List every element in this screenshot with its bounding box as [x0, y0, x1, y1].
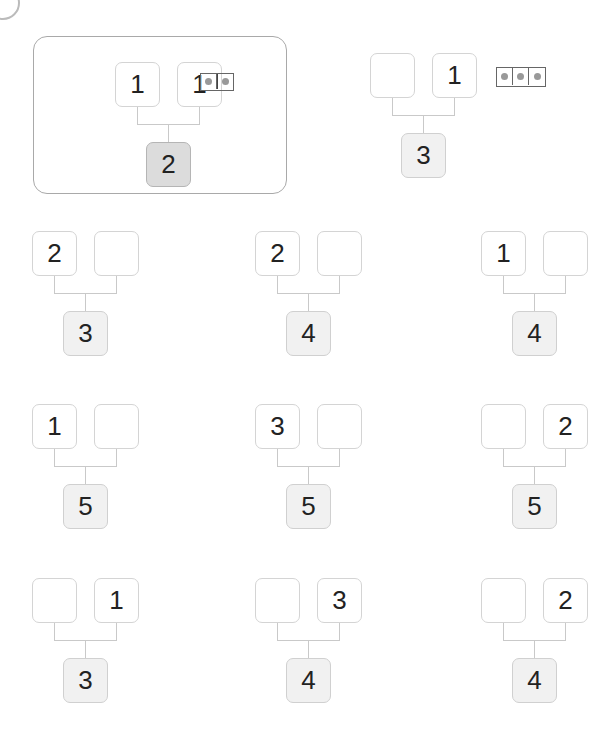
- number-bond-8: 3 4: [255, 578, 411, 718]
- connector-line: [308, 640, 309, 658]
- connector-line: [565, 623, 566, 640]
- part-box-left[interactable]: [370, 53, 415, 98]
- part-box-right: 2: [543, 404, 588, 449]
- connector-line: [277, 449, 278, 466]
- connector-line: [54, 276, 55, 293]
- connector-line: [277, 623, 278, 640]
- connector-line: [339, 449, 340, 466]
- dot-icon: [205, 78, 212, 85]
- number-bond-5: 3 5: [255, 404, 411, 544]
- part-box-right: 2: [543, 578, 588, 623]
- connector-line: [339, 276, 340, 293]
- connector-line: [565, 276, 566, 293]
- connector-line: [454, 98, 455, 115]
- counter-cell: [217, 74, 233, 89]
- connector-line: [54, 449, 55, 466]
- whole-box: 4: [512, 311, 557, 356]
- connector-line: [534, 466, 535, 484]
- number-bond-9: 2 4: [481, 578, 615, 718]
- dot-icon: [517, 73, 524, 80]
- connector-line: [308, 293, 309, 311]
- counter-cell: [529, 68, 545, 85]
- connector-line: [199, 107, 200, 124]
- connector-line: [308, 466, 309, 484]
- whole-box: 5: [512, 484, 557, 529]
- dot-icon: [534, 73, 541, 80]
- part-box-left: 1: [32, 404, 77, 449]
- number-bond-4: 1 5: [32, 404, 188, 544]
- counter-cell: [201, 74, 217, 89]
- connector-line: [116, 623, 117, 640]
- connector-line: [85, 640, 86, 658]
- whole-box: 2: [146, 142, 191, 187]
- connector-line: [503, 623, 504, 640]
- connector-line: [85, 293, 86, 311]
- number-bond-6: 2 5: [481, 404, 615, 544]
- counter-cell: [497, 68, 513, 85]
- connector-line: [85, 466, 86, 484]
- dot-icon: [501, 73, 508, 80]
- part-box-left: 3: [255, 404, 300, 449]
- part-box-right[interactable]: [543, 231, 588, 276]
- counter-cell: [513, 68, 529, 85]
- part-box-right[interactable]: [94, 404, 139, 449]
- part-box-right: 1: [94, 578, 139, 623]
- number-bond-1: 2 3: [32, 231, 188, 371]
- connector-line: [168, 124, 169, 142]
- dot-counter: [200, 73, 234, 91]
- part-box-right: 1: [432, 53, 477, 98]
- part-box-right[interactable]: [317, 231, 362, 276]
- part-box-left: 1: [481, 231, 526, 276]
- connector-line: [277, 276, 278, 293]
- part-box-left[interactable]: [32, 578, 77, 623]
- part-box-left: 2: [32, 231, 77, 276]
- part-box-right[interactable]: [317, 404, 362, 449]
- connector-line: [534, 640, 535, 658]
- whole-box: 4: [286, 311, 331, 356]
- part-box-left: 1: [115, 62, 160, 107]
- connector-line: [565, 449, 566, 466]
- connector-line: [503, 449, 504, 466]
- whole-box: 3: [63, 311, 108, 356]
- whole-box: 4: [286, 658, 331, 703]
- dot-icon: [222, 78, 229, 85]
- connector-line: [503, 276, 504, 293]
- part-box-left[interactable]: [255, 578, 300, 623]
- connector-line: [116, 276, 117, 293]
- whole-box: 5: [63, 484, 108, 529]
- connector-line: [339, 623, 340, 640]
- connector-line: [392, 98, 393, 115]
- connector-line: [423, 115, 424, 133]
- connector-line: [116, 449, 117, 466]
- corner-decoration: [0, 0, 20, 20]
- whole-box: 3: [401, 133, 446, 178]
- connector-line: [54, 623, 55, 640]
- part-box-left[interactable]: [481, 578, 526, 623]
- part-box-left[interactable]: [481, 404, 526, 449]
- whole-box: 3: [63, 658, 108, 703]
- number-bond-2: 2 4: [255, 231, 411, 371]
- example-number-bond: 1 1 2: [115, 62, 271, 202]
- part-box-left: 2: [255, 231, 300, 276]
- number-bond-7: 1 3: [32, 578, 188, 718]
- part-box-right: 3: [317, 578, 362, 623]
- connector-line: [137, 107, 138, 124]
- whole-box: 4: [512, 658, 557, 703]
- whole-box: 5: [286, 484, 331, 529]
- part-box-right[interactable]: [94, 231, 139, 276]
- connector-line: [534, 293, 535, 311]
- number-bond-3: 1 4: [481, 231, 615, 371]
- dot-counter: [496, 67, 546, 87]
